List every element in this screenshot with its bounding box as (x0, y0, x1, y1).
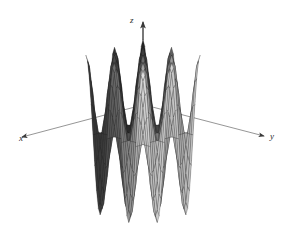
surface-plot-figure: x y z (0, 0, 287, 226)
z-axis-label: z (130, 16, 134, 25)
surface-plot-canvas (0, 0, 287, 226)
surface-mesh (86, 40, 200, 223)
x-axis-label: x (19, 134, 23, 143)
y-axis-label: y (270, 132, 274, 141)
